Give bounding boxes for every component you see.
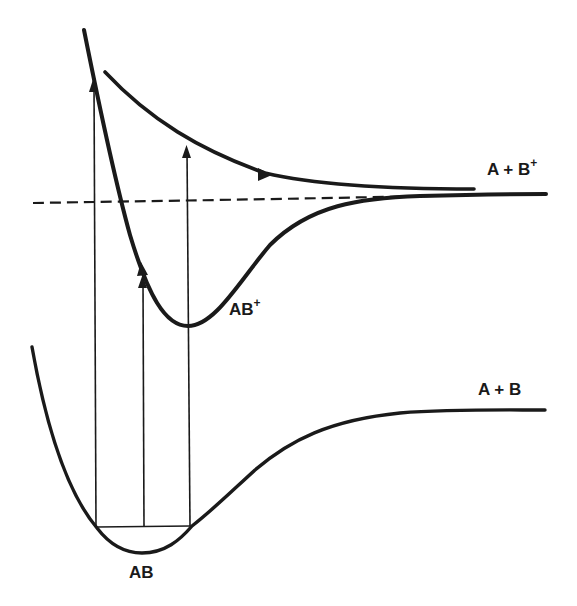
transition-arrow-right <box>187 150 190 526</box>
arrowhead-right-icon <box>182 145 191 158</box>
ion-bound-curve <box>84 30 546 326</box>
repulsive-direction-arrow-icon <box>258 168 272 181</box>
ground-state-curve <box>32 347 545 553</box>
label-ground-asymptote: A + B <box>478 380 521 399</box>
label-ground-minimum: AB <box>129 563 154 582</box>
label-ion-asymptote: A + B+ <box>487 156 537 179</box>
potential-energy-diagram: AB AB+ A + B A + B+ <box>0 0 577 606</box>
transition-arrow-left <box>94 84 96 527</box>
transition-arrow-center <box>143 282 144 527</box>
ion-repulsive-curve <box>105 72 474 189</box>
label-ion-minimum: AB+ <box>229 296 261 319</box>
